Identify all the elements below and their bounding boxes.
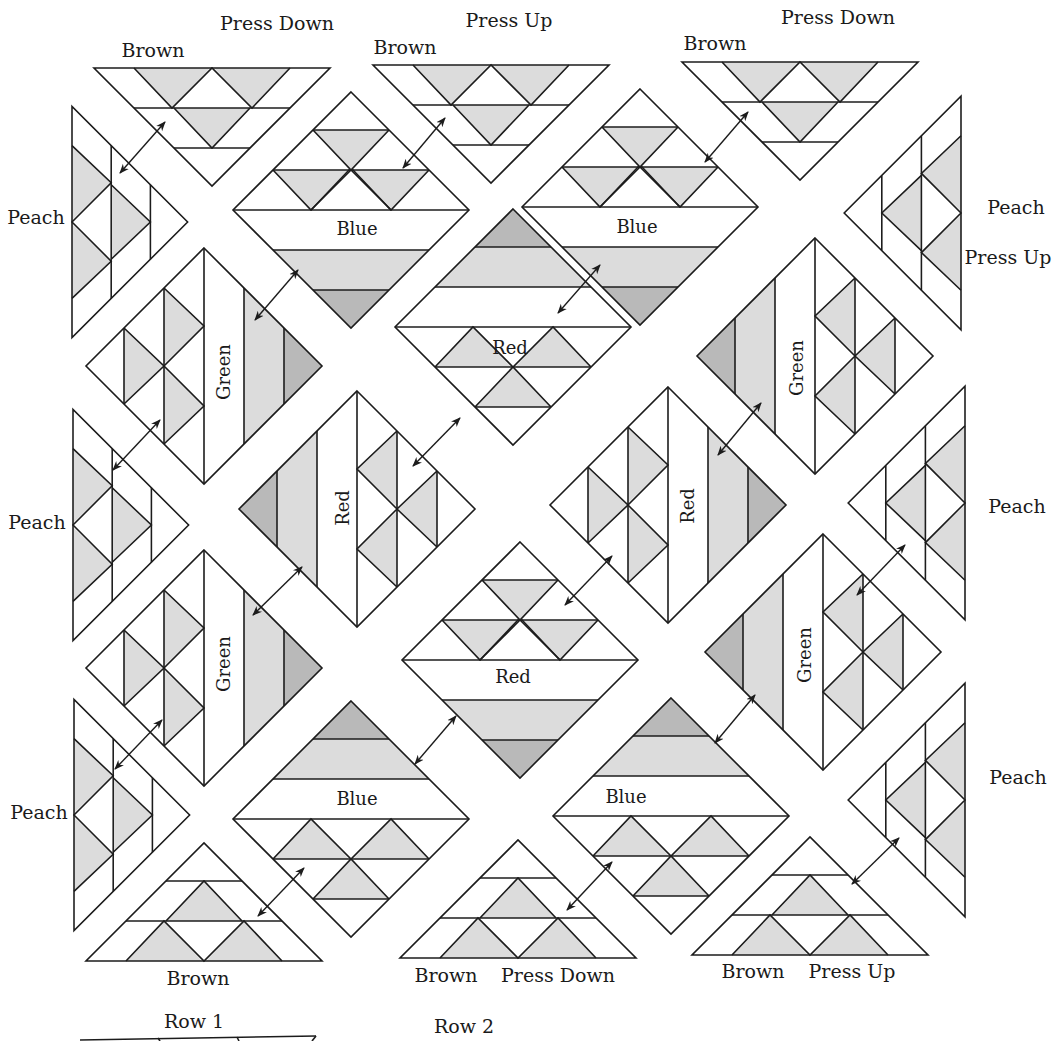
block-label: Green [786, 340, 807, 396]
setting-triangle-top-right [682, 62, 918, 180]
block-label: Red [332, 490, 353, 526]
label-peach: Peach [987, 196, 1044, 218]
label-peach: Peach [8, 511, 65, 533]
setting-triangle-right-bot [848, 683, 965, 917]
label-brown: Brown [122, 39, 185, 61]
block-red-center-top: Red [395, 209, 631, 445]
label-brown: Brown [722, 960, 785, 982]
label-peach: Peach [989, 766, 1046, 788]
block-blue-top-right: Blue [522, 89, 758, 325]
label-brown: Brown [374, 36, 437, 58]
block-red-left-vertical: Red [239, 391, 475, 627]
block-label: Red [492, 337, 528, 358]
label-press-down: Press Down [220, 12, 334, 34]
setting-triangle-top-left [94, 68, 330, 186]
block-label: Green [213, 344, 234, 400]
setting-triangle-right-top [844, 96, 961, 330]
label-press-up: Press Up [809, 960, 896, 982]
block-label: Green [213, 636, 234, 692]
setting-triangle-top-mid [373, 65, 609, 183]
block-blue-top-left: Blue [233, 92, 469, 328]
quilt-diagram: Blue Blue Red Green Green Green Green Re… [0, 0, 1064, 1041]
setting-triangle-right-mid [848, 386, 965, 620]
block-red-center-bottom: Red [402, 542, 638, 778]
label-brown: Brown [415, 964, 478, 986]
block-label: Blue [616, 216, 657, 237]
block-blue-bottom-left: Blue [233, 701, 469, 937]
block-label: Blue [605, 786, 646, 807]
label-press-down: Press Down [501, 964, 615, 986]
block-green-left-bottom: Green [86, 550, 322, 786]
label-peach: Peach [10, 801, 67, 823]
label-row-2: Row 2 [434, 1015, 494, 1037]
setting-triangle-bottom-left [86, 843, 322, 961]
block-green-right-bottom: Green [705, 534, 941, 770]
label-brown: Brown [684, 32, 747, 54]
block-red-right-vertical: Red [550, 387, 786, 623]
block-label: Green [794, 627, 815, 683]
label-peach: Peach [988, 495, 1045, 517]
label-row-1: Row 1 [164, 1010, 224, 1032]
setting-triangle-bottom-mid [400, 840, 636, 958]
block-label: Red [677, 488, 698, 524]
label-brown: Brown [167, 967, 230, 989]
label-press-down: Press Down [781, 6, 895, 28]
label-peach: Peach [7, 206, 64, 228]
block-label: Red [495, 666, 531, 687]
row-1-strip [80, 1036, 316, 1041]
label-press-up: Press Up [965, 246, 1052, 268]
label-press-up: Press Up [466, 9, 553, 31]
block-blue-bottom-right: Blue [553, 698, 789, 934]
block-label: Blue [336, 218, 377, 239]
block-label: Blue [336, 788, 377, 809]
